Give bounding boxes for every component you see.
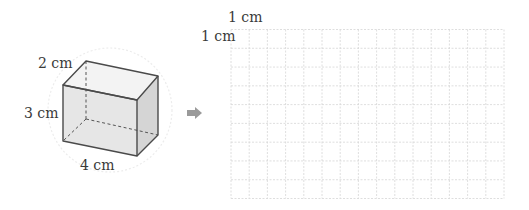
grid-unit-label-left: 1 cm xyxy=(201,29,235,43)
cuboid xyxy=(63,61,158,156)
depth-label: 2 cm xyxy=(38,56,72,70)
diagram-canvas xyxy=(0,0,529,210)
right-arrow-icon xyxy=(187,107,202,119)
cuboid-net-exercise: 2 cm 3 cm 4 cm 1 cm 1 cm xyxy=(0,0,529,210)
grid-unit-label-top: 1 cm xyxy=(228,10,262,24)
height-label: 3 cm xyxy=(24,106,58,120)
square-grid xyxy=(231,30,504,199)
width-label: 4 cm xyxy=(80,158,114,172)
